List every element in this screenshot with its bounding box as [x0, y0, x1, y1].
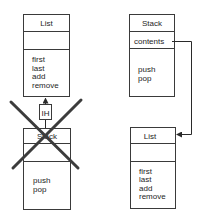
left-list-class: List first last add remove: [24, 15, 70, 97]
left-stack-class: Stack push pop: [24, 129, 71, 210]
right-stack-field: contents: [134, 37, 164, 46]
right-list-method: remove: [139, 192, 166, 201]
left-list-method: remove: [32, 81, 59, 90]
right-stack-method: pop: [138, 74, 152, 83]
ih-label: IH: [42, 109, 50, 118]
right-list-class: List first last add remove: [131, 128, 176, 209]
right-stack-class: Stack contents push pop: [130, 15, 175, 97]
class-diagram: List first last add remove IH Stack push…: [0, 0, 203, 219]
left-list-name: List: [40, 19, 53, 28]
right-list-name: List: [144, 132, 157, 141]
inheritance-relationship: IH: [40, 99, 52, 129]
left-stack-method: pop: [33, 185, 47, 194]
right-stack-name: Stack: [142, 19, 163, 28]
